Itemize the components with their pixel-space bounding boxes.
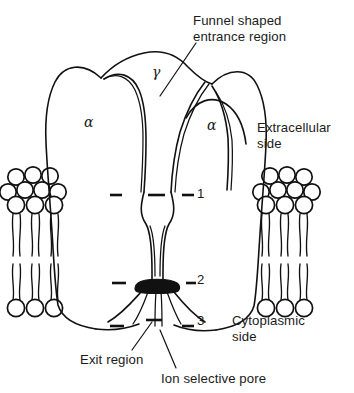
level-number-3: 3 [197,313,204,328]
subunit-label-alpha-left: α [84,114,93,130]
label-funnel-shaped-entrance-region: Funnel shaped entrance region [193,13,286,44]
leader-pore [160,330,176,368]
subunit-boundaries [104,74,246,192]
label-exit-region: Exit region [80,352,143,368]
label-extracellular-side: Extracellular side [257,120,331,151]
level-number-1: 1 [197,186,204,201]
lipid-head-group-lower-left [7,299,62,316]
label-cytoplasmic-side: Cytoplasmic side [232,313,305,344]
lipid-head-group-upper-left [0,167,66,214]
level-marker-dashes [110,195,196,326]
subunit-label-alpha-right: α [207,117,216,133]
lipid-tails-lower-left [12,264,58,300]
ion-selective-pore-constriction [135,279,180,293]
lipid-tails-upper-right [261,214,307,256]
transmembrane-pore-walls [141,192,174,283]
figure-canvas: Funnel shaped entrance region Extracellu… [0,0,354,393]
label-ion-selective-pore: Ion selective pore [161,371,266,387]
level-number-2: 2 [197,272,204,287]
lipid-tails-lower-right [261,264,307,300]
subunit-label-gamma: γ [152,64,160,80]
